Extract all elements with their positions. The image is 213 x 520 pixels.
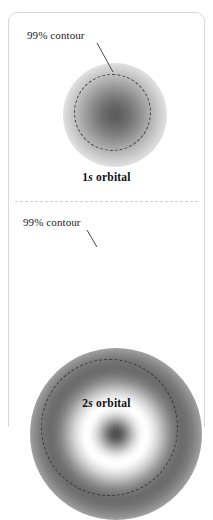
contour-callout-label-1s: 99% contour <box>27 29 85 41</box>
orbital-caption-2s: 2s orbital <box>9 397 204 409</box>
contour-callout-label-2s: 99% contour <box>23 216 81 228</box>
orbital-caption-1s: 1s orbital <box>9 171 204 183</box>
orbital-caption-1s-suffix: orbital <box>93 171 131 183</box>
orbital-panel-1s: 99% contour 1s orbital <box>9 13 204 201</box>
leader-line-2s <box>9 201 206 428</box>
orbital-caption-2s-suffix: orbital <box>93 397 131 409</box>
orbital-figure-card: 99% contour 1s orbital 99% contour 2s or… <box>8 12 205 427</box>
orbital-panel-2s: 99% contour 2s orbital <box>9 201 204 428</box>
